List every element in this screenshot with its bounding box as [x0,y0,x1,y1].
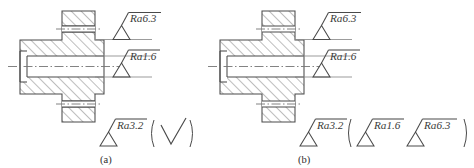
technical-drawing: Ra6.3 Ra1.6 Ra3.2 [0,0,474,168]
bottom-boss-hatch [62,94,95,122]
bracket-symbol-1-b[interactable]: Ra1.6 [357,119,404,147]
finish-tail-bore-a [122,50,129,63]
paren-close-b [464,119,467,147]
part-section-b [208,11,320,122]
finish-tail-bore-b [322,50,329,63]
panel-a: Ra6.3 Ra1.6 Ra3.2 [8,11,193,166]
finish-triangle-bore-a [113,63,130,77]
finish-triangle-top-a [113,26,130,40]
panel-caption-a: (a) [100,154,112,166]
paren-close-a [190,120,193,147]
general-triangle-a [100,132,117,146]
bracket-triangle-1-b [357,132,374,146]
general-tail-b [309,119,316,132]
finish-label-top-a: Ra6.3 [129,12,157,24]
bracket-tail-2-b [416,119,423,132]
bracket-label-1-b: Ra1.6 [373,119,401,131]
general-label-b: Ra3.2 [316,119,344,131]
bracket-triangle-2-b [407,132,424,146]
basic-symbol-a[interactable] [161,118,186,144]
drawing-sheet: Ra6.3 Ra1.6 Ra3.2 [0,0,474,168]
finish-tail-top-b [322,13,329,26]
finish-symbol-bore-a[interactable]: Ra1.6 [113,50,160,78]
panel-b: Ra6.3 Ra1.6 Ra3.2 [208,11,467,166]
general-note-b[interactable]: Ra3.2 Ra1.6 Ra6.3 [300,119,467,148]
finish-label-bore-b: Ra1.6 [329,50,357,62]
paren-open-b [349,119,352,147]
upper-wall-hatch-b [220,40,304,56]
bottom-boss-hatch-b [262,94,295,122]
finish-symbol-top-a[interactable]: Ra6.3 [113,12,161,40]
finish-label-top-b: Ra6.3 [329,12,357,24]
upper-wall-hatch [20,40,104,56]
general-note-a[interactable]: Ra3.2 [100,118,193,147]
finish-label-bore-a: Ra1.6 [129,50,157,62]
finish-symbol-top-b[interactable]: Ra6.3 [313,12,361,40]
general-label-a: Ra3.2 [116,119,144,131]
general-tail-a [109,119,116,132]
lower-wall-hatch-b [220,77,304,94]
part-section-a [8,11,120,122]
panel-caption-b: (b) [298,154,311,166]
bracket-label-2-b: Ra6.3 [423,119,451,131]
bracket-symbol-2-b[interactable]: Ra6.3 [407,119,457,147]
finish-symbol-bore-b[interactable]: Ra1.6 [313,50,360,78]
finish-tail-top-a [122,13,129,26]
lower-wall-hatch [20,77,104,94]
bracket-tail-1-b [366,119,373,132]
paren-open-a [152,120,155,147]
basic-symbol-glyph-a [161,118,186,144]
general-triangle-b [300,132,317,146]
finish-triangle-top-b [313,26,330,40]
finish-triangle-bore-b [313,63,330,77]
